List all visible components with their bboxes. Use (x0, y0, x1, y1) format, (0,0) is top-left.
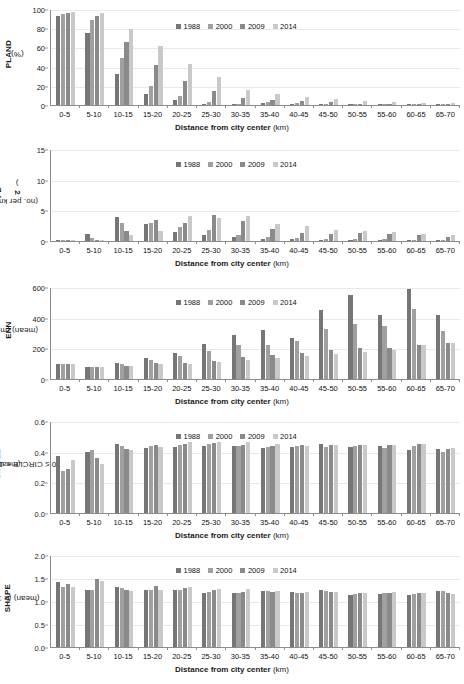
legend-item-1988: 1988 (176, 298, 200, 307)
bar-group (402, 288, 431, 379)
legend-swatch-icon (176, 300, 181, 305)
bar (129, 591, 133, 647)
x-tick-mark (431, 241, 460, 244)
bar (451, 448, 455, 513)
bar (66, 13, 70, 105)
bar (441, 331, 445, 379)
bar-group (109, 150, 138, 241)
legend-item-2014: 2014 (273, 22, 297, 31)
x-tick-mark (285, 105, 314, 108)
bar-group (51, 10, 80, 105)
bar (149, 86, 153, 105)
bar (183, 588, 187, 647)
bar (446, 449, 450, 513)
bar (382, 326, 386, 379)
x-axis-title-unit: (km) (273, 259, 289, 268)
bar (295, 593, 299, 647)
x-tick-mark (314, 105, 343, 108)
bar (100, 13, 104, 105)
bar (217, 218, 221, 241)
legend-pland: 1988200020092014 (176, 22, 297, 31)
x-tick-label: 10-15 (109, 384, 138, 395)
bar (246, 216, 250, 241)
legend-swatch-icon (208, 300, 213, 305)
x-tick-label: 60-65 (401, 246, 430, 257)
bar-group (402, 10, 431, 105)
y-axis-labels-shape: 0.00.51.01.52.0 (26, 556, 48, 648)
x-tick-label: 50-55 (343, 110, 372, 121)
bar (363, 352, 367, 379)
bar (66, 364, 70, 379)
bar (85, 590, 89, 648)
bar (56, 456, 60, 514)
x-tick-mark (285, 513, 314, 516)
bar (241, 221, 245, 241)
legend-item-2000: 2000 (208, 160, 232, 169)
y-axis-labels-pd: 051015 (26, 150, 48, 242)
bar-group (109, 556, 138, 647)
bar (178, 96, 182, 105)
x-tick-mark (431, 379, 460, 382)
bar (144, 448, 148, 513)
bar (446, 343, 450, 379)
x-tick-mark (80, 647, 109, 650)
x-tick-mark (226, 379, 255, 382)
bar (387, 445, 391, 513)
legend-swatch-icon (176, 568, 181, 573)
bar (300, 233, 304, 241)
bar (378, 315, 382, 379)
bar (324, 591, 328, 647)
bar (378, 594, 382, 647)
bar-group (314, 422, 343, 513)
x-tick-label: 5-10 (79, 384, 108, 395)
x-tick-label: 30-35 (226, 652, 255, 663)
y-axis-labels-enn: 0200400600 (26, 288, 48, 380)
x-tick-mark (80, 241, 109, 244)
bar (154, 363, 158, 379)
bar (290, 592, 294, 647)
x-tick-label: 45-50 (314, 246, 343, 257)
x-tick-mark (197, 105, 226, 108)
bar (115, 217, 119, 241)
bar (236, 446, 240, 513)
legend-item-2009: 2009 (240, 432, 264, 441)
x-tick-label: 0-5 (50, 110, 79, 121)
x-tick-mark (139, 241, 168, 244)
x-tick-label: 5-10 (79, 246, 108, 257)
y-tick-label: 2.0 (35, 552, 45, 561)
bar (56, 364, 60, 379)
bar-group (139, 288, 168, 379)
bar (241, 98, 245, 105)
x-tick-label: 25-30 (196, 518, 225, 529)
bar (178, 445, 182, 513)
bar (71, 12, 75, 105)
plot-area-circle: 0.00.20.40.61988200020092014 (26, 422, 460, 514)
bar (202, 344, 206, 379)
bar (441, 591, 445, 647)
y-tick-mark (45, 288, 48, 289)
bar (417, 593, 421, 647)
bar (275, 224, 279, 241)
x-tick-label: 25-30 (196, 246, 225, 257)
bar (334, 445, 338, 513)
bar (300, 445, 304, 513)
bar (266, 345, 270, 379)
bar (275, 358, 279, 379)
x-tick-mark (343, 105, 372, 108)
bar (124, 590, 128, 648)
x-tick-label: 45-50 (314, 384, 343, 395)
x-tick-label: 5-10 (79, 518, 108, 529)
bar-group (109, 422, 138, 513)
bar (348, 295, 352, 379)
y-tick-mark (45, 318, 48, 319)
x-tick-label: 55-60 (372, 652, 401, 663)
plot-area-shape: 0.00.51.01.52.01988200020092014 (26, 556, 460, 648)
x-tick-label: 35-40 (255, 518, 284, 529)
legend-swatch-icon (240, 162, 245, 167)
x-tick-label: 45-50 (314, 110, 343, 121)
x-tick-label: 25-30 (196, 652, 225, 663)
legend-label: 1988 (184, 22, 201, 31)
legend-label: 2009 (248, 432, 265, 441)
bar-group (343, 556, 372, 647)
x-tick-mark (314, 379, 343, 382)
